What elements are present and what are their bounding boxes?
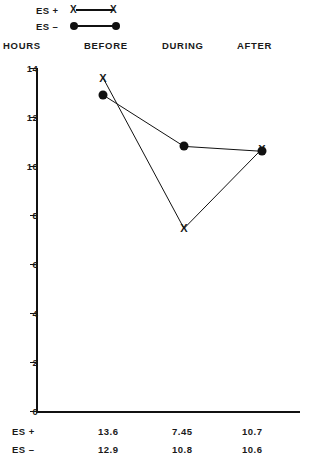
table-row-label-es-plus: ES + xyxy=(12,426,35,437)
data-point-es-plus-during: X xyxy=(180,223,187,234)
dot-marker-icon xyxy=(180,142,189,151)
data-point-es-minus-after xyxy=(258,147,267,156)
table-cell-es-minus-before: 12.9 xyxy=(98,444,119,455)
x-marker-icon: X xyxy=(99,72,106,83)
table-cell-es-plus-before: 13.6 xyxy=(98,426,119,437)
table-row: ES + 13.6 7.45 10.7 xyxy=(0,426,309,444)
series-polylines xyxy=(0,0,309,466)
table-cell-es-plus-during: 7.45 xyxy=(172,426,193,437)
x-marker-icon: X xyxy=(180,223,187,234)
chart-figure: ES + X X ES – HOURS BEFORE DURING AFTER … xyxy=(0,0,309,466)
data-value-table: ES + 13.6 7.45 10.7 ES – 12.9 10.8 10.6 xyxy=(0,426,309,462)
table-cell-es-minus-during: 10.8 xyxy=(172,444,193,455)
table-cell-es-plus-after: 10.7 xyxy=(242,426,263,437)
data-point-es-minus-during xyxy=(180,142,189,151)
data-point-es-minus-before xyxy=(99,90,108,99)
plot-area: 02468101214 XXX xyxy=(0,0,309,466)
table-row-label-es-minus: ES – xyxy=(12,444,35,455)
data-point-es-plus-before: X xyxy=(99,72,106,83)
table-row: ES – 12.9 10.8 10.6 xyxy=(0,444,309,462)
dot-marker-icon xyxy=(258,147,267,156)
series-line-es-plus xyxy=(103,78,262,229)
dot-marker-icon xyxy=(99,90,108,99)
table-cell-es-minus-after: 10.6 xyxy=(242,444,263,455)
